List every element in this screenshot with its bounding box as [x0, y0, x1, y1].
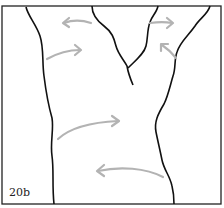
tree-diagram — [0, 0, 224, 208]
trunk-right-outline — [155, 6, 210, 204]
figure-label: 20b — [9, 186, 30, 199]
branch-left-outline — [92, 6, 133, 85]
arrow-icon-lower-center — [58, 116, 119, 139]
arrow-icon-bottom — [97, 165, 163, 177]
arrow-icon-mid-right — [161, 44, 176, 58]
arrow-icon-top-right — [150, 18, 173, 28]
trunk-left-outline — [26, 7, 54, 204]
branch-right-outline — [128, 6, 158, 68]
arrow-icon-top-left — [63, 18, 91, 27]
arrow-icon-mid-left — [47, 45, 81, 59]
